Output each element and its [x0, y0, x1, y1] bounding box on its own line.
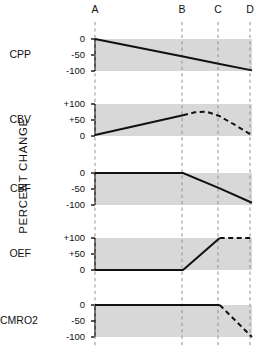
band-cbf — [95, 173, 252, 205]
band-oef — [95, 238, 252, 270]
panel-label-oef: OEF — [0, 247, 31, 259]
y-tick-label-cmro2-2: -100 — [33, 331, 85, 342]
shaded-bands — [95, 39, 252, 337]
y-tick-label-cmro2-0: 0 — [33, 299, 85, 310]
panel-label-cpp: CPP — [0, 48, 31, 60]
band-cmro2 — [95, 305, 252, 337]
y-tick-label-cbv-2: 0 — [33, 130, 85, 141]
y-tick-label-oef-2: 0 — [33, 264, 85, 275]
y-tick-label-cbv-1: +50 — [33, 114, 85, 125]
panel-label-cbv: CBV — [0, 113, 31, 125]
y-tick-label-cbf-2: -100 — [33, 199, 85, 210]
y-tick-label-cbf-1: -50 — [33, 183, 85, 194]
phase-label-a: A — [85, 3, 105, 15]
y-tick-label-cbf-0: 0 — [33, 167, 85, 178]
y-tick-label-cbv-0: +100 — [33, 98, 85, 109]
y-tick-label-cpp-1: -50 — [33, 49, 85, 60]
axis-spines-and-ticks — [91, 39, 95, 337]
band-cbv — [95, 104, 252, 136]
y-tick-label-cpp-2: -100 — [33, 65, 85, 76]
panel-label-cmro2: CMRO2 — [0, 314, 31, 326]
y-tick-label-oef-1: +50 — [33, 248, 85, 259]
y-tick-label-oef-0: +100 — [33, 232, 85, 243]
percent-change-figure: PERCENT CHANGE ABCD0-50-100CPP+100+500CB… — [0, 0, 258, 350]
phase-label-b: B — [172, 3, 192, 15]
panel-label-cbf: CBF — [0, 182, 31, 194]
y-tick-label-cmro2-1: -50 — [33, 315, 85, 326]
phase-label-d: D — [240, 3, 258, 15]
phase-label-c: C — [208, 3, 228, 15]
y-tick-label-cpp-0: 0 — [33, 33, 85, 44]
